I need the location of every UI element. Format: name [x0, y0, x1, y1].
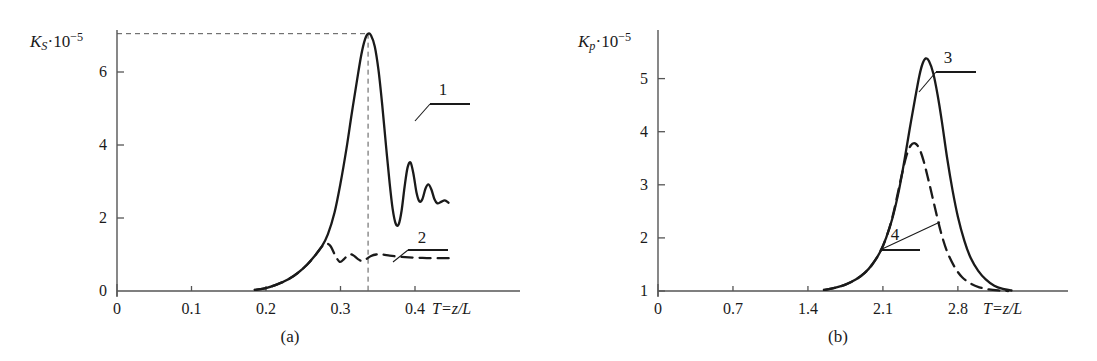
panel-b-y-axis-label: Kp·10−5 [578, 30, 631, 53]
panel-a: KS·10−5 T=z/L (a) 1 2 00.10.20.30.40246 [0, 0, 548, 361]
panel-a-y-tick-label: 0 [77, 282, 107, 300]
panel-b-y-tick-label: 3 [618, 176, 648, 194]
panel-a-x-tick-label: 0.3 [331, 300, 351, 318]
callout-leader-1 [415, 104, 430, 121]
panel-a-y-tick-label: 4 [77, 136, 107, 154]
panel-b: Kp·10−5 T=z/L (b) 3 4 00.71.42.12.812345 [548, 0, 1097, 361]
panel-b-caption: (b) [828, 327, 848, 347]
panel-a-x-tick-label: 0 [113, 300, 121, 318]
figure-root: KS·10−5 T=z/L (a) 1 2 00.10.20.30.40246 … [0, 0, 1097, 361]
panel-a-y-tick-label: 6 [77, 63, 107, 81]
panel-a-curve-label-1: 1 [439, 80, 448, 100]
panel-a-y-axis-label: KS·10−5 [30, 30, 83, 53]
panel-b-y-tick-label: 5 [618, 70, 648, 88]
panel-b-x-tick-label: 1.4 [798, 300, 818, 318]
panel-b-y-tick-label: 2 [618, 229, 648, 247]
panel-a-caption: (a) [281, 327, 300, 347]
panel-a-x-tick-label: 0.2 [256, 300, 276, 318]
curve-3 [824, 58, 1011, 290]
panel-b-x-tick-label: 0 [654, 300, 662, 318]
panel-b-x-tick-label: 2.8 [948, 300, 968, 318]
callout-leader-3 [919, 72, 936, 92]
panel-a-x-axis-label: T=z/L [432, 300, 471, 318]
panel-b-curve-label-4: 4 [891, 225, 900, 245]
panel-a-x-tick-label: 0.4 [405, 300, 425, 318]
panel-a-curve-label-2: 2 [418, 228, 427, 248]
panel-a-x-tick-label: 0.1 [182, 300, 202, 318]
panel-b-curve-label-3: 3 [944, 48, 953, 68]
panel-b-y-tick-label: 1 [618, 282, 648, 300]
panel-a-y-tick-label: 2 [77, 209, 107, 227]
curve-4 [824, 143, 1008, 291]
panel-b-x-axis-label: T=z/L [983, 300, 1022, 318]
panel-b-x-tick-label: 0.7 [723, 300, 743, 318]
panel-b-y-tick-label: 4 [618, 123, 648, 141]
panel-b-x-tick-label: 2.1 [873, 300, 893, 318]
curve-1 [255, 33, 449, 289]
